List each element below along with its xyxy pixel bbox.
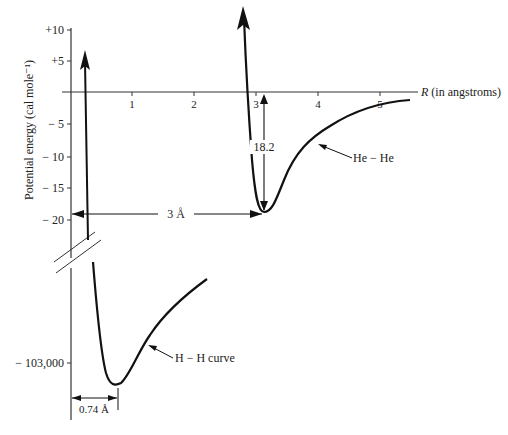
x-axis-label: R (in angstroms) <box>420 85 501 99</box>
h-distance-label: 0.74 Å <box>79 403 109 415</box>
arrowhead-right-icon <box>250 210 262 218</box>
ytick-m10: − 10 <box>42 150 64 164</box>
x-ticks <box>132 92 380 96</box>
arrowhead-up-icon <box>260 94 268 104</box>
arrowhead-icon <box>318 144 327 150</box>
he-he-label: He − He <box>353 151 394 165</box>
he-he-curve <box>244 18 410 212</box>
potential-energy-diagram: +10 +5 − 5 − 10 − 15 − 20 − 103,000 1 2 … <box>0 0 508 435</box>
h-h-label: H − H curve <box>175 351 235 365</box>
ytick-p5: +5 <box>51 54 64 68</box>
arrowhead-right-icon <box>108 395 117 401</box>
he-distance-label: 3 Å <box>167 207 185 221</box>
h-h-upper-line <box>85 62 88 240</box>
ytick-p10: +10 <box>45 23 64 37</box>
y-axis-label: Potential energy (cal mole⁻¹) <box>22 60 36 200</box>
ytick-m15: − 15 <box>42 181 64 195</box>
xtick-4: 4 <box>315 98 321 110</box>
ytick-m20: − 20 <box>42 213 64 227</box>
ytick-m103000: − 103,000 <box>15 356 64 370</box>
h-h-curve <box>93 262 207 385</box>
arrowhead-left-icon <box>72 210 84 218</box>
arrowhead-left-icon <box>72 395 81 401</box>
ytick-m5: − 5 <box>48 117 64 131</box>
xtick-3: 3 <box>253 98 259 110</box>
depth-label: 18.2 <box>254 140 275 154</box>
xtick-2: 2 <box>191 98 197 110</box>
arrowhead-icon <box>148 345 157 351</box>
xtick-1: 1 <box>129 98 135 110</box>
